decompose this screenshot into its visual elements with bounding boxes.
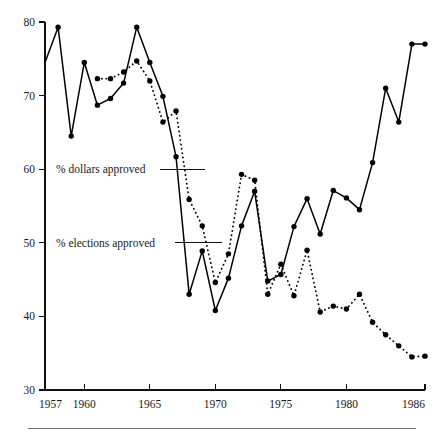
data-point (186, 292, 191, 297)
data-point (213, 280, 218, 285)
line-chart: 304050607080 195719601965197019751980198… (0, 0, 444, 437)
data-point (186, 197, 191, 202)
data-point (160, 119, 165, 124)
data-point (422, 353, 427, 358)
series-line (97, 61, 425, 357)
data-point (252, 189, 257, 194)
data-point (317, 309, 322, 314)
x-axis-tick-labels: 1957196019651970197519801986 (39, 398, 425, 410)
data-point (265, 292, 270, 297)
data-point (173, 108, 178, 113)
data-point (344, 195, 349, 200)
data-point (370, 160, 375, 165)
y-tick-label: 70 (24, 90, 36, 102)
data-point (304, 196, 309, 201)
data-point (422, 41, 427, 46)
y-tick-label: 30 (24, 384, 36, 396)
data-point (147, 78, 152, 83)
annotation-elections-approved: % elections approved (56, 237, 155, 250)
data-point (265, 278, 270, 283)
x-tick-label: 1957 (39, 398, 62, 410)
x-tick-label: 1986 (402, 398, 425, 410)
data-point (160, 94, 165, 99)
data-point (95, 76, 100, 81)
data-point (317, 231, 322, 236)
data-point (396, 343, 401, 348)
data-point (200, 223, 205, 228)
data-point (108, 96, 113, 101)
chart-figure: 304050607080 195719601965197019751980198… (0, 0, 444, 437)
data-point (121, 80, 126, 85)
x-tick-label: 1970 (204, 398, 227, 410)
axis-lines (45, 22, 425, 390)
data-point (357, 207, 362, 212)
data-point (173, 154, 178, 159)
data-point (82, 60, 87, 65)
data-point (409, 354, 414, 359)
data-point (344, 306, 349, 311)
data-point (200, 248, 205, 253)
y-tick-label: 60 (24, 163, 36, 175)
data-point (213, 308, 218, 313)
data-point (396, 119, 401, 124)
y-axis-tick-labels: 304050607080 (24, 16, 36, 396)
data-point (55, 24, 60, 29)
data-point (95, 102, 100, 107)
data-point (134, 24, 139, 29)
data-point (291, 224, 296, 229)
y-tick-label: 80 (24, 16, 36, 28)
data-point (239, 223, 244, 228)
y-tick-label: 50 (24, 237, 36, 249)
data-point (383, 86, 388, 91)
x-tick-label: 1965 (138, 398, 161, 410)
data-point (147, 60, 152, 65)
chart-annotations: % dollars approved% elections approved (56, 163, 222, 250)
data-point (69, 133, 74, 138)
x-tick-label: 1975 (269, 398, 292, 410)
data-point (331, 303, 336, 308)
data-point (409, 41, 414, 46)
series-dollars-approved (95, 58, 428, 359)
data-point (134, 58, 139, 63)
data-point (331, 188, 336, 193)
x-tick-label: 1980 (335, 398, 358, 410)
data-point (108, 76, 113, 81)
data-point (357, 292, 362, 297)
data-point (226, 275, 231, 280)
data-point (278, 272, 283, 277)
data-point (370, 320, 375, 325)
annotation-dollars-approved: % dollars approved (56, 163, 146, 176)
data-point (304, 247, 309, 252)
data-point (226, 251, 231, 256)
data-point (291, 293, 296, 298)
data-point (252, 178, 257, 183)
data-point (239, 172, 244, 177)
y-tick-label: 40 (24, 310, 36, 322)
data-point (383, 332, 388, 337)
x-tick-label: 1960 (73, 398, 96, 410)
